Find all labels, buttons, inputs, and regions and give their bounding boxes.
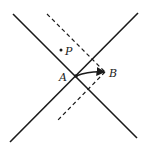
arrow-a-to-b: [76, 72, 104, 76]
label-p: P: [64, 45, 73, 58]
solid-diagonal-line-2: [10, 13, 138, 142]
diagram-svg: P A B: [0, 0, 148, 152]
light-cone-diagram: P A B: [0, 0, 148, 152]
label-a: A: [58, 71, 67, 84]
label-b: B: [108, 67, 117, 80]
dashed-line-upper: [47, 14, 105, 72]
point-a-dot: [74, 74, 78, 78]
point-p-dot: [60, 49, 63, 52]
